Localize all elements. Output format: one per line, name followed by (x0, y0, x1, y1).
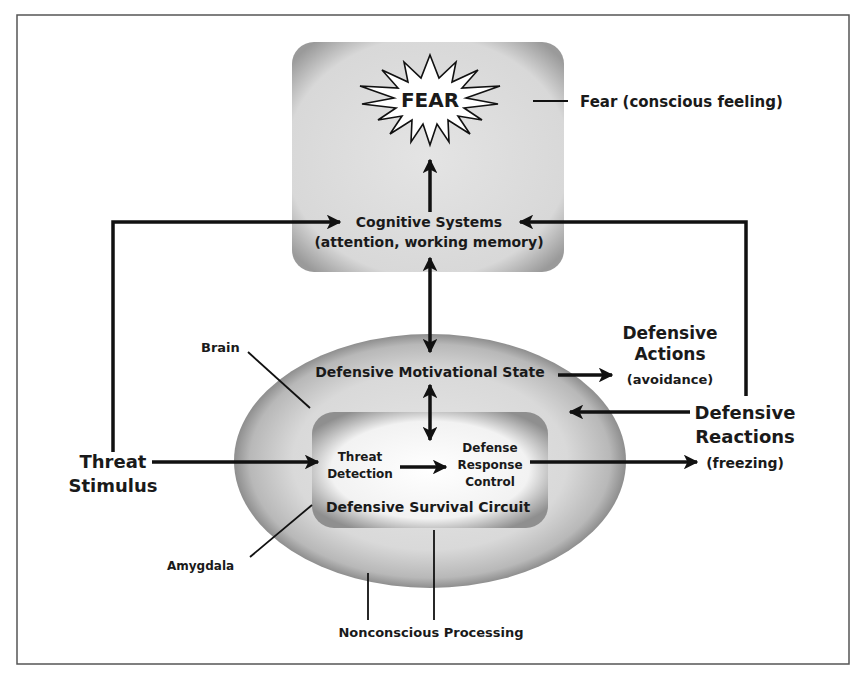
defensive-actions-label-1: Defensive (622, 323, 717, 343)
nonconscious-label: Nonconscious Processing (338, 625, 523, 640)
fear-caption: Fear (conscious feeling) (580, 93, 783, 111)
defense-response-label-2: Response (457, 458, 522, 472)
defensive-reactions-label-3: (freezing) (706, 455, 784, 471)
amygdala-label: Amygdala (167, 559, 234, 573)
brain-label: Brain (201, 340, 240, 355)
defensive-reactions-label-1: Defensive (695, 402, 796, 423)
threat-detection-label-1: Threat (338, 450, 383, 464)
defensive-actions-label-2: Actions (634, 344, 705, 364)
fear-diagram: FEAR Fear (conscious feeling) Cognitive … (0, 0, 865, 680)
motivational-state-label: Defensive Motivational State (315, 364, 545, 380)
defense-response-label-3: Control (465, 475, 515, 489)
defense-response-label-1: Defense (462, 441, 517, 455)
cognitive-systems-sublabel: (attention, working memory) (314, 234, 543, 250)
threat-stimulus-label-2: Stimulus (68, 475, 157, 496)
threat-detection-label-2: Detection (327, 467, 393, 481)
fear-label: FEAR (401, 88, 459, 112)
defensive-reactions-label-2: Reactions (695, 426, 795, 447)
defensive-actions-label-3: (avoidance) (627, 372, 713, 387)
survival-circuit-label: Defensive Survival Circuit (326, 499, 530, 515)
threat-stimulus-label-1: Threat (80, 451, 147, 472)
cognitive-systems-label: Cognitive Systems (356, 214, 502, 230)
